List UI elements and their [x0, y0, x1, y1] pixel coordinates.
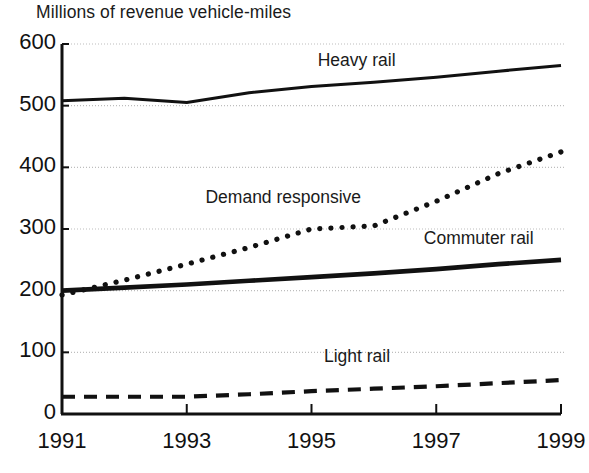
x-tick-label: 1993	[147, 428, 227, 454]
series-line-demand-responsive	[62, 152, 561, 295]
y-tick-label: 300	[0, 214, 56, 240]
series-label-commuter-rail: Commuter rail	[424, 228, 534, 249]
y-tick-label: 100	[0, 337, 56, 363]
y-tick-label: 500	[0, 91, 56, 117]
series-label-heavy-rail: Heavy rail	[318, 50, 396, 71]
revenue-vehicle-miles-chart: Millions of revenue vehicle-miles 010020…	[0, 0, 589, 473]
y-tick-label: 200	[0, 276, 56, 302]
x-tick-label: 1999	[521, 428, 589, 454]
y-tick-label: 400	[0, 152, 56, 178]
series-label-light-rail: Light rail	[324, 346, 390, 367]
x-tick-label: 1997	[396, 428, 476, 454]
x-tick-label: 1995	[272, 428, 352, 454]
y-tick-label: 600	[0, 29, 56, 55]
y-tick-label: 0	[0, 399, 56, 425]
series-label-demand-responsive: Demand responsive	[205, 187, 361, 208]
series-line-light-rail	[62, 380, 561, 397]
series-line-heavy-rail	[62, 66, 561, 103]
x-tick-label: 1991	[22, 428, 102, 454]
